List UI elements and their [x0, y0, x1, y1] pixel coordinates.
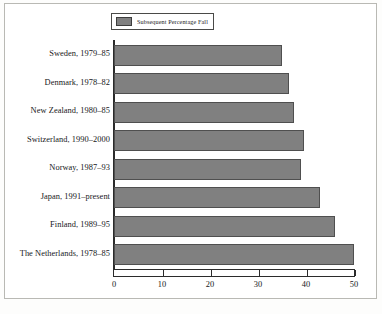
axis-tick: [355, 270, 356, 276]
bar-row: [114, 159, 354, 180]
category-label: Finland, 1989–95: [2, 220, 110, 229]
axis-tick-label: 30: [254, 280, 262, 289]
axis-tick-label: 20: [206, 280, 214, 289]
bar: [114, 244, 354, 265]
bar-row: [114, 216, 354, 237]
bar: [114, 130, 304, 151]
bar-row: [114, 187, 354, 208]
bar: [114, 187, 320, 208]
category-label: Sweden, 1979–85: [2, 49, 110, 58]
axis-tick: [211, 270, 212, 276]
axis-tick-label: 50: [350, 280, 358, 289]
category-label: Switzerland, 1990–2000: [2, 135, 110, 144]
axis-tick: [163, 270, 164, 276]
category-label: Norway, 1987–93: [2, 163, 110, 172]
bar-row: [114, 45, 354, 66]
axis-tick-label: 0: [112, 280, 116, 289]
bar: [114, 216, 335, 237]
bar-chart-figure: Subsequent Percentage Fall Sweden, 1979–…: [0, 0, 382, 314]
bar-row: [114, 73, 354, 94]
bar: [114, 102, 294, 123]
axis-tick-label: 10: [158, 280, 166, 289]
value-axis-band: [113, 269, 355, 277]
axis-tick-label: 40: [302, 280, 310, 289]
chart-legend: Subsequent Percentage Fall: [111, 13, 214, 30]
bar-row: [114, 130, 354, 151]
category-axis-labels: Sweden, 1979–85Denmark, 1978–82New Zeala…: [0, 41, 110, 269]
value-axis-tick-labels: 01020304050: [113, 280, 355, 294]
category-label: Denmark, 1978–82: [2, 78, 110, 87]
legend-label: Subsequent Percentage Fall: [137, 18, 208, 25]
bar: [114, 45, 282, 66]
bar: [114, 73, 289, 94]
category-label: Japan, 1991–present: [2, 192, 110, 201]
legend-color-swatch: [116, 17, 132, 26]
axis-tick: [259, 270, 260, 276]
axis-tick: [307, 270, 308, 276]
category-label: New Zealand, 1980–85: [2, 106, 110, 115]
bar-row: [114, 244, 354, 265]
bar-row: [114, 102, 354, 123]
category-label: The Netherlands, 1978–85: [2, 249, 110, 258]
plot-area: [114, 41, 354, 269]
bar: [114, 159, 301, 180]
